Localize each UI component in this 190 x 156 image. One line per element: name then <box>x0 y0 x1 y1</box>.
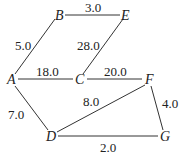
weight-A-B: 5.0 <box>15 38 31 53</box>
node-E: E <box>120 8 130 23</box>
weight-A-D: 7.0 <box>8 107 24 122</box>
node-D: D <box>45 129 56 144</box>
weight-F-G: 4.0 <box>162 96 178 111</box>
weight-B-E: 3.0 <box>85 0 101 15</box>
weight-D-F: 8.0 <box>83 94 99 109</box>
weighted-graph-diagram: A B C D E F G 3.0 5.0 28.0 18.0 20.0 7.0… <box>0 0 190 156</box>
weight-C-E: 28.0 <box>77 38 100 53</box>
node-B: B <box>55 8 64 23</box>
edge-D-F <box>57 85 145 132</box>
weight-D-G: 2.0 <box>100 140 116 155</box>
node-C: C <box>75 72 85 87</box>
node-G: G <box>160 129 170 144</box>
node-A: A <box>6 72 16 87</box>
node-F: F <box>144 72 154 87</box>
weight-C-F: 20.0 <box>104 64 127 79</box>
weight-A-C: 18.0 <box>36 64 59 79</box>
